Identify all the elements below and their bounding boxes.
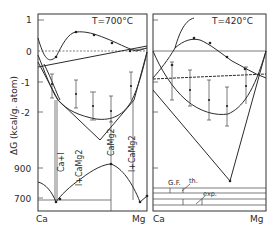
phase-label-l-camg2-left: l+CaMg2 [75,150,84,186]
y-tick-0: 0 [26,47,32,57]
right-legend: G.F. th. exp. [153,177,266,205]
upper-dg-curve [38,32,147,60]
right-tangent-line [153,74,266,79]
y-tick-1: 1 [26,15,32,25]
right-panel: T=420°C [153,14,266,224]
phase-diagram-chart: 1 0 -1 -2 900 700 ΔG (kcal/g. atom) T=70… [0,0,279,238]
legend-th: th. [189,177,198,185]
right-liquid-curve [153,51,266,114]
left-error-bars [50,72,133,122]
y-axis-label: ΔG (kcal/g. atom) [9,76,19,155]
right-upper-dg-curve [153,39,266,78]
phase-label-l-camg2-right: l+CaMg2 [128,136,137,172]
left-panel-title: T=700°C [91,16,133,26]
legend-gf: G.F. [168,179,181,187]
y-tick-900: 900 [14,164,31,174]
right-x-label-ca: Ca [153,214,165,224]
left-frame [38,14,147,211]
y-tick-neg2: -2 [21,108,30,118]
y-tick-700: 700 [14,194,31,204]
right-panel-title: T=420°C [211,16,253,26]
phase-label-camg2: CaMg2 [107,128,116,156]
phase-label-ca-l: Ca+l [57,153,66,172]
y-tick-neg1: -1 [21,78,30,88]
legend-exp: exp. [203,190,217,198]
right-x-label-mg: Mg [250,214,263,224]
tangent-line [38,46,147,67]
left-x-label-ca: Ca [36,214,48,224]
left-x-label-mg: Mg [132,214,145,224]
right-error-bars [170,62,248,126]
left-panel: 1 0 -1 -2 900 700 ΔG (kcal/g. atom) T=70… [9,14,148,224]
